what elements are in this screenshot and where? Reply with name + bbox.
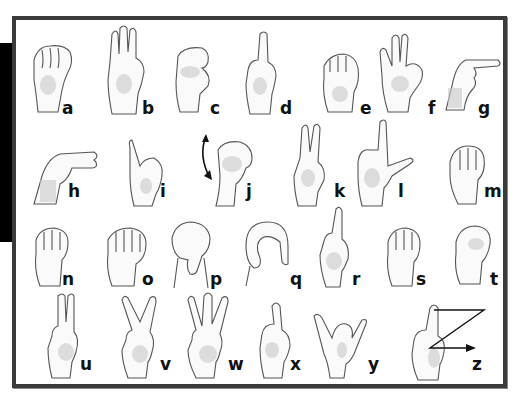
z-motion-arrow-icon bbox=[0, 0, 520, 395]
letter-z: z bbox=[472, 356, 482, 373]
